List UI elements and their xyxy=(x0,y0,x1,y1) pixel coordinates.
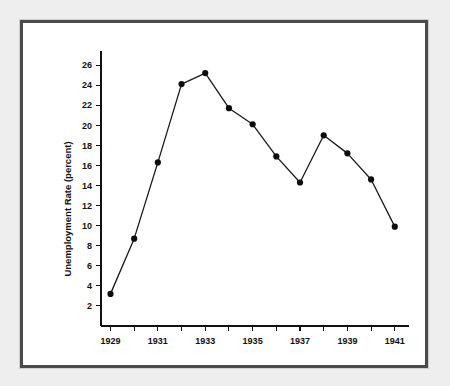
figure-page: 2468101214161820222426 19291931193319351… xyxy=(0,0,450,386)
y-tick-label: 10 xyxy=(82,221,92,231)
data-point-marker[interactable]: 1935: 20.1 xyxy=(250,121,256,127)
x-tick-label: 1931 xyxy=(148,336,168,346)
y-tick-label: 4 xyxy=(87,281,92,291)
chart-plot-area: 2468101214161820222426 19291931193319351… xyxy=(23,23,425,365)
data-point-marker[interactable]: 1929: 3.2 xyxy=(107,291,113,297)
data-point-marker[interactable]: 1939: 17.2 xyxy=(344,150,350,156)
x-tick-label: 1941 xyxy=(385,336,405,346)
data-point-marker[interactable]: 1936: 16.9 xyxy=(273,153,279,159)
y-axis: 2468101214161820222426 xyxy=(82,51,101,326)
data-point-marker[interactable]: 1933: 25.2 xyxy=(202,70,208,76)
y-tick-label: 14 xyxy=(82,181,92,191)
data-point-marker[interactable]: 1932: 24.1 xyxy=(178,81,184,87)
y-tick-label: 26 xyxy=(82,60,92,70)
y-tick-label: 6 xyxy=(87,261,92,271)
y-tick-label: 2 xyxy=(87,301,92,311)
series-line xyxy=(110,73,394,294)
data-point-marker[interactable]: 1934: 21.7 xyxy=(226,105,232,111)
x-tick-label: 1937 xyxy=(290,336,310,346)
y-tick-label: 24 xyxy=(82,80,92,90)
data-series-unemployment-rate[interactable]: 1929: 3.21930: 8.71931: 16.31932: 24.119… xyxy=(107,70,398,297)
data-point-marker[interactable]: 1930: 8.7 xyxy=(131,236,137,242)
y-tick-label: 12 xyxy=(82,201,92,211)
data-point-marker[interactable]: 1938: 19 xyxy=(321,132,327,138)
line-chart[interactable]: 2468101214161820222426 19291931193319351… xyxy=(23,23,425,365)
y-tick-label: 22 xyxy=(82,100,92,110)
y-tick-label: 18 xyxy=(82,141,92,151)
y-tick-label: 16 xyxy=(82,161,92,171)
x-tick-label: 1935 xyxy=(243,336,263,346)
x-tick-label: 1929 xyxy=(100,336,120,346)
y-tick-label: 20 xyxy=(82,121,92,131)
data-point-marker[interactable]: 1941: 9.9 xyxy=(392,224,398,230)
x-tick-label: 1933 xyxy=(195,336,215,346)
y-axis-title: Unemployment Rate (percent) xyxy=(62,141,73,276)
data-point-marker[interactable]: 1931: 16.3 xyxy=(155,159,161,165)
x-axis: 1929193119331935193719391941 xyxy=(100,326,409,346)
data-point-marker[interactable]: 1940: 14.6 xyxy=(368,176,374,182)
x-tick-label: 1939 xyxy=(337,336,357,346)
data-point-marker[interactable]: 1937: 14.3 xyxy=(297,179,303,185)
figure-frame: 2468101214161820222426 19291931193319351… xyxy=(20,20,428,368)
y-tick-label: 8 xyxy=(87,241,92,251)
